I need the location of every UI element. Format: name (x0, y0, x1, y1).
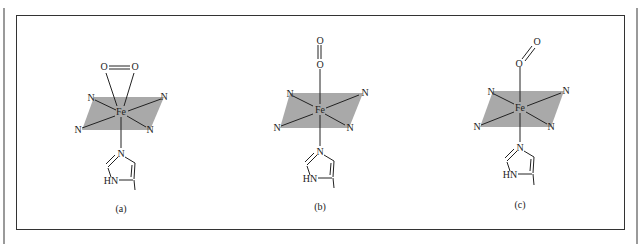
imidazole-hn: HN (303, 173, 317, 184)
panel-a: O O Fe N N N N N HN (a) (74, 61, 167, 215)
panel-c: O O Fe N N N N N HN (c) (473, 36, 569, 211)
iron-atom: Fe (515, 102, 526, 113)
nitrogen-top-right: N (562, 85, 569, 96)
imidazole-nitrogen: N (117, 148, 124, 159)
nitrogen-top-left: N (87, 92, 94, 103)
oxygen-atom-2: O (316, 59, 323, 70)
nitrogen-bottom-left: N (74, 124, 81, 135)
oxygen-atom-bound: O (515, 58, 522, 69)
oxygen-atom-1: O (316, 35, 323, 46)
iron-atom: Fe (116, 106, 127, 117)
nitrogen-top-right: N (160, 91, 167, 102)
nitrogen-top-left: N (286, 88, 293, 99)
imidazole-nitrogen: N (316, 146, 323, 157)
oxygen-atom-terminal: O (533, 36, 540, 47)
imidazole-hn: HN (503, 169, 517, 180)
caption-c: (c) (514, 199, 525, 211)
iron-atom: Fe (315, 104, 326, 115)
oxygen-atom-2: O (131, 61, 138, 72)
nitrogen-bottom-right: N (146, 124, 153, 135)
imidazole-nitrogen: N (516, 142, 523, 153)
nitrogen-bottom-right: N (346, 122, 353, 133)
oxygen-atom-1: O (100, 61, 107, 72)
nitrogen-top-right: N (361, 87, 368, 98)
nitrogen-bottom-left: N (473, 121, 480, 132)
caption-a: (a) (115, 203, 126, 215)
nitrogen-top-left: N (487, 86, 494, 97)
heme-o2-binding-diagram: O O Fe N N N N N HN (a) (0, 0, 641, 244)
nitrogen-bottom-left: N (273, 122, 280, 133)
caption-b: (b) (314, 201, 326, 213)
panel-b: O O Fe N N N N N HN (b) (273, 35, 368, 213)
nitrogen-bottom-right: N (547, 121, 554, 132)
imidazole-hn: HN (104, 175, 118, 186)
